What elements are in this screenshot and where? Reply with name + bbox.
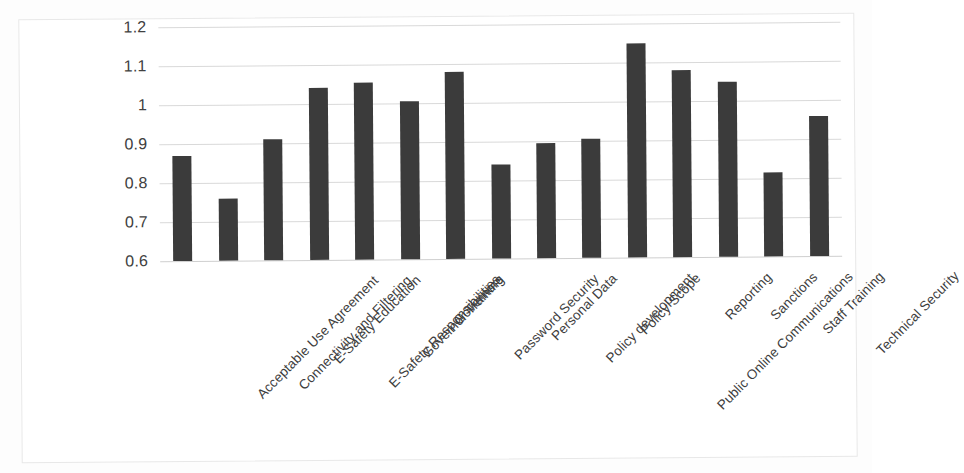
chart-frame: 0.60.70.80.911.11.2 Acceptable Use Agree… — [18, 13, 857, 464]
bar[interactable] — [218, 198, 237, 261]
bar[interactable] — [354, 82, 374, 260]
bar[interactable] — [626, 43, 647, 258]
y-axis-tick-label: 0.8 — [125, 174, 148, 192]
bar[interactable] — [173, 156, 193, 261]
x-axis-tick-label: Public Online Communications — [715, 270, 856, 412]
y-axis-tick-label: 0.7 — [125, 213, 148, 231]
x-axis-labels: Acceptable Use AgreementConnectivity and… — [160, 266, 843, 456]
bar[interactable] — [445, 72, 465, 259]
bar[interactable] — [536, 143, 556, 258]
y-axis-tick-label: 1.1 — [124, 57, 147, 75]
bar[interactable] — [764, 172, 784, 256]
x-axis-tick-label: Governors — [451, 273, 505, 328]
y-axis-tick-label: 0.6 — [125, 252, 148, 270]
x-axis-tick-label: Policy Scope — [638, 271, 703, 337]
bar[interactable] — [308, 88, 328, 260]
bar[interactable] — [718, 81, 738, 257]
bar[interactable] — [582, 139, 602, 258]
x-axis-tick-label: Technical Security — [875, 269, 962, 357]
plot-area: 0.60.70.80.911.11.2 — [158, 22, 842, 261]
bar[interactable] — [263, 139, 283, 260]
x-axis-tick-label: Reporting — [723, 270, 774, 322]
bar[interactable] — [399, 101, 419, 259]
bar[interactable] — [809, 116, 829, 257]
chart-inner: 0.60.70.80.911.11.2 Acceptable Use Agree… — [19, 14, 856, 463]
bar[interactable] — [672, 70, 692, 257]
bar-series — [158, 22, 842, 261]
y-axis-tick-label: 0.9 — [124, 135, 147, 153]
y-axis-tick-label: 1 — [138, 96, 147, 114]
y-axis-tick-label: 1.2 — [123, 18, 146, 36]
x-axis-tick-label: Password Security — [512, 272, 601, 362]
bar[interactable] — [491, 165, 511, 259]
